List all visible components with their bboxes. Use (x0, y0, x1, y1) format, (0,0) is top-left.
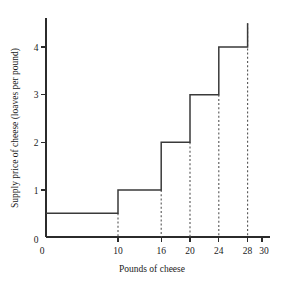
x-tick-label-0: 0 (40, 246, 45, 256)
y-tick-label-0: 0 (34, 235, 39, 245)
y-axis-ticks (41, 47, 46, 190)
x-axis-tick-labels: 0 10 16 20 24 28 30 (40, 246, 269, 256)
supply-price-step-chart: 0 1 2 3 4 Supply price of cheese (loaves… (0, 0, 294, 283)
supply-curve-group (46, 23, 248, 213)
supply-step-curve (46, 23, 248, 213)
x-axis-title: Pounds of cheese (119, 264, 185, 274)
y-tick-label-4: 4 (34, 43, 39, 53)
drop-lines-group (118, 23, 248, 237)
y-tick-label-2: 2 (34, 138, 39, 148)
x-axis-group: 0 10 16 20 24 28 30 Pounds of cheese (40, 237, 270, 274)
x-tick-label-16: 16 (156, 246, 166, 256)
x-tick-label-24: 24 (214, 246, 224, 256)
y-tick-label-1: 1 (34, 186, 39, 196)
x-tick-label-28: 28 (243, 246, 253, 256)
chart-canvas: 0 1 2 3 4 Supply price of cheese (loaves… (0, 0, 294, 283)
x-axis-ticks (118, 237, 262, 242)
x-tick-label-10: 10 (113, 246, 123, 256)
y-axis-group: 0 1 2 3 4 Supply price of cheese (loaves… (10, 18, 46, 245)
y-axis-tick-labels: 0 1 2 3 4 (34, 43, 39, 246)
y-tick-label-3: 3 (34, 90, 39, 100)
x-tick-label-20: 20 (185, 246, 195, 256)
y-axis-title: Supply price of cheese (loaves per pound… (10, 48, 21, 208)
x-tick-label-30: 30 (259, 246, 269, 256)
